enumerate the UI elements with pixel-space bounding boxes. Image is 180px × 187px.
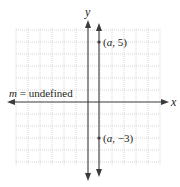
point-a-5 [97,40,100,43]
slope-value: undefined [29,87,73,99]
point-label-a-neg3: (a, −3) [103,132,133,145]
point-label-a-5: (a, 5) [103,36,127,49]
slope-equals: = [17,87,29,99]
x-axis-left-arrow-icon [7,99,15,105]
point-a-neg3 [97,136,100,139]
y-axis [85,20,91,181]
y-axis-up-arrow-icon [85,20,91,28]
coordinate-plane: y x m = undefined (a, 5) (a, −3) [0,0,180,187]
y-axis-label: y [84,5,91,19]
vertical-line-x-equals-a [96,23,102,177]
x-axis-right-arrow-icon [161,99,169,105]
y-axis-down-arrow-icon [85,173,91,181]
slope-annotation: m = undefined [9,87,73,99]
slope-variable: m [9,87,17,99]
line-down-arrow-icon [96,169,102,177]
x-axis-label: x [170,95,177,109]
line-up-arrow-icon [96,23,102,31]
